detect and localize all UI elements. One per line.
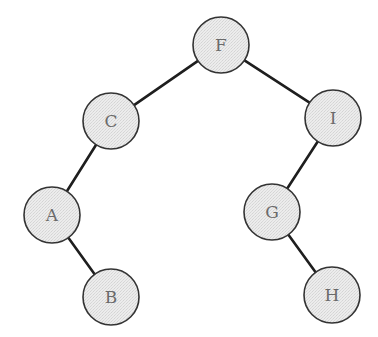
node-label: A	[45, 205, 59, 225]
node-label: C	[104, 111, 117, 131]
edge-f-c	[134, 61, 198, 105]
edges-layer	[67, 60, 318, 274]
edge-f-i	[244, 60, 309, 102]
node-label: I	[330, 108, 337, 128]
binary-tree-diagram: FCIAGBH	[0, 0, 378, 337]
tree-node-f: F	[193, 17, 249, 73]
edge-g-h	[288, 235, 315, 273]
tree-node-c: C	[83, 93, 139, 149]
edge-i-g	[287, 141, 318, 188]
node-label: F	[215, 35, 227, 55]
edge-c-a	[67, 145, 96, 192]
node-label: B	[105, 287, 118, 307]
tree-node-h: H	[304, 267, 360, 323]
tree-node-i: I	[305, 90, 361, 146]
tree-node-a: A	[24, 187, 80, 243]
edge-a-b	[68, 238, 94, 275]
node-label: G	[265, 202, 279, 222]
node-label: H	[325, 285, 340, 305]
tree-node-g: G	[244, 184, 300, 240]
tree-node-b: B	[83, 269, 139, 325]
